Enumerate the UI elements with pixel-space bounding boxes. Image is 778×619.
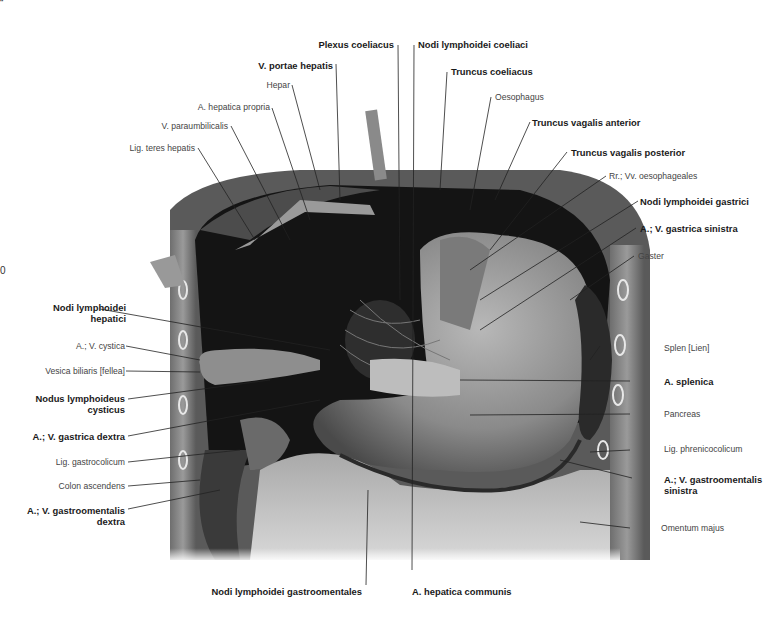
label-v-portae-hepatis: V. portae hepatis <box>236 60 333 71</box>
label-pancreas: Pancreas <box>664 409 700 420</box>
label-plexus-coeliacus: Plexus coeliacus <box>298 39 394 50</box>
label-line-2: cysticus <box>0 404 125 415</box>
label-a-hepatica-communis: A. hepatica communis <box>412 586 512 597</box>
label-oesophagus: Oesophagus <box>495 92 544 103</box>
label-line-2: sinistra <box>664 485 762 496</box>
label-a-hepatica-propria: A. hepatica propria <box>180 102 270 113</box>
label-a-splenica: A. splenica <box>664 376 714 387</box>
label-a-v-cystica: A.; V. cystica <box>0 341 125 352</box>
label-line-1: A.; V. gastroomentalis <box>0 505 125 516</box>
label-nodus-lymphoideus-cysticus: Nodus lymphoideus cysticus <box>0 393 125 415</box>
label-colon-ascendens: Colon ascendens <box>0 481 125 492</box>
label-truncus-coeliacus: Truncus coeliacus <box>451 66 533 77</box>
label-line-1: Nodi lymphoidei <box>0 302 126 313</box>
edge-mark-left: 0 <box>0 265 6 276</box>
label-nodi-lymphoidei-gastroomentales: Nodi lymphoidei gastroomentales <box>200 586 362 597</box>
label-line-1: Nodus lymphoideus <box>0 393 125 404</box>
label-lig-phrenicocolicum: Lig. phrenicocolicum <box>664 444 742 455</box>
label-splen: Splen [Lien] <box>664 343 709 354</box>
label-rr-vv-oesophageales: Rr.; Vv. oesophageales <box>609 171 697 182</box>
label-omentum-majus: Omentum majus <box>661 523 724 534</box>
edge-mark-top: “ <box>0 0 3 9</box>
label-truncus-vagalis-posterior: Truncus vagalis posterior <box>571 147 685 158</box>
label-nodi-lymphoidei-coeliaci: Nodi lymphoidei coeliaci <box>418 39 528 50</box>
label-vesica-biliaris: Vesica biliaris [fellea] <box>0 366 125 377</box>
label-line-2: dextra <box>0 516 125 527</box>
label-nodi-lymphoidei-gastrici: Nodi lymphoidei gastrici <box>640 196 749 207</box>
label-lig-gastrocolicum: Lig. gastrocolicum <box>0 457 125 468</box>
label-a-v-gastrica-sinistra: A.; V. gastrica sinistra <box>640 223 738 234</box>
label-truncus-vagalis-anterior: Truncus vagalis anterior <box>532 117 640 128</box>
label-a-v-gastrica-dextra: A.; V. gastrica dextra <box>0 431 125 442</box>
label-v-paraumbilicalis: V. paraumbilicalis <box>150 121 228 132</box>
label-hepar: Hepar <box>250 80 290 91</box>
label-gaster: Gaster <box>638 251 664 262</box>
label-line-2: hepatici <box>0 313 126 324</box>
label-nodi-lymphoidei-hepatici: Nodi lymphoidei hepatici <box>0 302 126 324</box>
label-a-v-gastroomentalis-sinistra: A.; V. gastroomentalis sinistra <box>664 474 762 496</box>
label-a-v-gastroomentalis-dextra: A.; V. gastroomentalis dextra <box>0 505 125 527</box>
label-line-1: A.; V. gastroomentalis <box>664 474 762 485</box>
label-lig-teres-hepatis: Lig. teres hepatis <box>110 143 195 154</box>
